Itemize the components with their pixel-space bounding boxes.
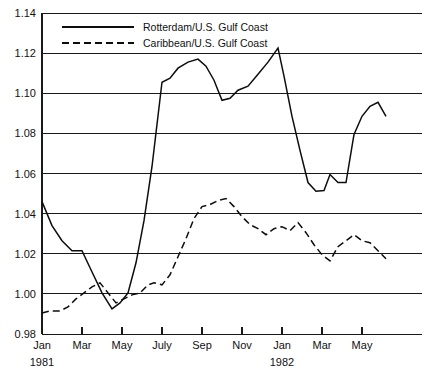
ytick-label: 1.02 (15, 248, 36, 260)
xtick-label: May (112, 339, 133, 351)
xaxis-tick-labels: JanMarMayJulySepNovJanMarMay (33, 339, 373, 351)
xaxis-year-labels: 19811982 (30, 356, 294, 368)
ytick-label: 1.14 (15, 7, 36, 19)
xtick-label: Mar (73, 339, 92, 351)
xaxis-ticks-group (82, 327, 362, 334)
xtick-label: Mar (313, 339, 332, 351)
ytick-label: 1.08 (15, 127, 36, 139)
legend-label-1: Rotterdam/U.S. Gulf Coast (143, 21, 268, 33)
series-line-1 (42, 48, 386, 309)
line-chart: 1.141.121.101.081.061.041.021.000.98 Jan… (0, 0, 435, 383)
chart-figure: 1.141.121.101.081.061.041.021.000.98 Jan… (0, 0, 435, 383)
xtick-label: Jan (33, 339, 51, 351)
legend-label-2: Caribbean/U.S. Gulf Coast (143, 37, 267, 49)
ytick-label: 1.04 (15, 208, 36, 220)
chart-legend: Rotterdam/U.S. Gulf CoastCaribbean/U.S. … (62, 21, 268, 49)
xtick-label: July (152, 339, 172, 351)
xtick-label: Jan (273, 339, 291, 351)
yaxis-tick-labels: 1.141.121.101.081.061.041.021.000.98 (15, 7, 36, 340)
xtick-label: May (352, 339, 373, 351)
series-layer (42, 48, 386, 313)
ytick-label: 1.00 (15, 288, 36, 300)
xtick-label: Sep (192, 339, 212, 351)
year-label: 1982 (270, 356, 294, 368)
xtick-label: Nov (232, 339, 252, 351)
year-label: 1981 (30, 356, 54, 368)
ytick-label: 1.06 (15, 168, 36, 180)
ytick-label: 1.12 (15, 47, 36, 59)
series-line-2 (42, 199, 386, 313)
ytick-label: 1.10 (15, 87, 36, 99)
